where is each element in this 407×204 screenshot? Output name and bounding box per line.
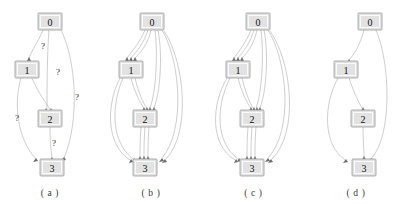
- node-b-2[interactable]: 2: [133, 110, 157, 127]
- edge-0-1-a: [234, 30, 251, 58]
- edge-1-2-a: [131, 78, 144, 108]
- node-d-2[interactable]: 2: [351, 110, 375, 127]
- node-a-0[interactable]: 0: [38, 13, 62, 30]
- node-a-1-label: 1: [25, 65, 30, 76]
- node-b-0-label: 0: [150, 17, 155, 28]
- panel-c: 0 1 2 3 ( c ): [202, 0, 305, 204]
- figure-canvas: ? ? ? ? ? 0 1 2: [0, 0, 407, 204]
- node-b-1[interactable]: 1: [119, 61, 143, 78]
- node-d-3-label: 3: [362, 163, 367, 174]
- edge-0-2-a: [150, 30, 156, 108]
- node-c-3[interactable]: 3: [240, 159, 264, 176]
- panel-d-caption: ( d ): [305, 188, 407, 198]
- edge-group-c: [216, 30, 290, 160]
- edge-group-a: [17, 30, 74, 159]
- edge-label-0-3: ?: [75, 92, 79, 102]
- edge-0-1: [349, 30, 364, 60]
- edge-label-2-3: ?: [52, 138, 56, 148]
- node-d-1[interactable]: 1: [334, 61, 358, 78]
- edge-2-3-b: [144, 127, 145, 157]
- edge-0-2-b: [154, 30, 161, 108]
- edge-0-2-b: [260, 30, 267, 108]
- node-d-0-label: 0: [368, 17, 373, 28]
- node-a-3-label: 3: [50, 163, 55, 174]
- panel-c-caption: ( c ): [202, 188, 305, 198]
- edge-0-2-a: [256, 30, 262, 108]
- node-a-2[interactable]: 2: [38, 110, 62, 127]
- node-a-1[interactable]: 1: [15, 61, 39, 78]
- node-c-1[interactable]: 1: [226, 61, 250, 78]
- node-d-0[interactable]: 0: [358, 13, 382, 30]
- edge-0-2: [47, 30, 49, 109]
- edge-0-3-a: [268, 30, 285, 158]
- node-b-3-label: 3: [143, 163, 148, 174]
- node-c-2[interactable]: 2: [240, 110, 264, 127]
- node-d-2-label: 2: [361, 114, 366, 125]
- edge-1-3-b: [220, 78, 238, 159]
- edge-group-b: [111, 30, 183, 160]
- edge-1-3: [328, 78, 345, 160]
- edge-0-1-a: [127, 30, 145, 58]
- panel-d: 0 1 2 3 ( d ): [305, 0, 407, 204]
- edge-0-3-b: [270, 31, 290, 159]
- node-b-1-label: 1: [129, 65, 134, 76]
- edge-1-3-a: [111, 78, 130, 160]
- edge-1-3-a: [216, 78, 235, 160]
- node-c-0-label: 0: [256, 17, 261, 28]
- edge-group-d: [328, 30, 388, 160]
- node-b-2-label: 2: [143, 114, 148, 125]
- edge-0-3: [61, 30, 74, 158]
- node-c-2-label: 2: [250, 114, 255, 125]
- node-c-3-label: 3: [250, 163, 255, 174]
- edge-1-3: [17, 78, 36, 159]
- edge-1-2: [349, 78, 362, 108]
- edge-0-3-b: [164, 31, 182, 159]
- node-b-3[interactable]: 3: [133, 159, 157, 176]
- edge-2-3-c: [148, 127, 149, 157]
- panel-b: 0 1 2 3 ( b ): [100, 0, 202, 204]
- edge-2-3-a: [247, 127, 248, 157]
- edge-label-0-2: ?: [56, 67, 60, 77]
- edge-2-3: [363, 127, 364, 157]
- panel-b-caption: ( b ): [100, 188, 202, 198]
- node-a-2-label: 2: [48, 114, 53, 125]
- edge-2-3-c: [255, 127, 256, 157]
- edge-label-1-3: ?: [15, 113, 19, 123]
- node-a-3[interactable]: 3: [40, 159, 64, 176]
- edge-2-3-a: [140, 127, 141, 157]
- node-a-0-label: 0: [48, 17, 53, 28]
- node-c-1-label: 1: [236, 65, 241, 76]
- node-d-3[interactable]: 3: [352, 159, 376, 176]
- node-b-0[interactable]: 0: [140, 13, 164, 30]
- panel-a-caption: ( a ): [0, 188, 100, 198]
- edge-label-0-1: ?: [41, 41, 45, 51]
- edge-0-1-c: [242, 30, 257, 58]
- node-c-0[interactable]: 0: [246, 13, 270, 30]
- edge-1-2-a: [238, 78, 251, 108]
- edge-0-3-a: [162, 30, 178, 158]
- edge-0-3: [371, 30, 387, 159]
- edge-2-3-b: [251, 127, 252, 157]
- node-d-1-label: 1: [344, 65, 349, 76]
- panel-a: ? ? ? ? ? 0 1 2: [0, 0, 100, 204]
